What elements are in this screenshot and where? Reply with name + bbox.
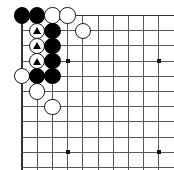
- go-board-diagram: [0, 0, 174, 170]
- white-stone[interactable]: [29, 83, 45, 99]
- black-stone[interactable]: [29, 7, 45, 23]
- black-stone[interactable]: [44, 23, 60, 39]
- white-stone[interactable]: [44, 99, 60, 115]
- black-stone[interactable]: [44, 53, 60, 69]
- black-stone[interactable]: [44, 38, 60, 54]
- white-stone[interactable]: [75, 23, 91, 39]
- stone-layer: [0, 0, 174, 170]
- triangle-mark-icon: [33, 42, 41, 49]
- white-stone[interactable]: [14, 68, 30, 84]
- triangle-mark-icon: [33, 27, 41, 34]
- white-stone[interactable]: [44, 7, 60, 23]
- black-stone[interactable]: [14, 7, 30, 23]
- white-stone[interactable]: [59, 7, 75, 23]
- triangle-mark-icon: [33, 58, 41, 65]
- black-stone[interactable]: [44, 68, 60, 84]
- black-stone[interactable]: [29, 68, 45, 84]
